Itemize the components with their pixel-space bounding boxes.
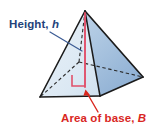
base-area-label-text: Area of base, xyxy=(61,112,135,124)
base-area-label: Area of base, B xyxy=(61,113,146,125)
height-label: Height, h xyxy=(9,19,59,31)
edge-base-left-to-front xyxy=(40,96,100,97)
height-label-text: Height, xyxy=(9,18,49,30)
pyramid-figure: Height, h Area of base, B xyxy=(0,0,166,133)
height-variable: h xyxy=(52,18,59,30)
base-area-variable: B xyxy=(138,112,146,124)
